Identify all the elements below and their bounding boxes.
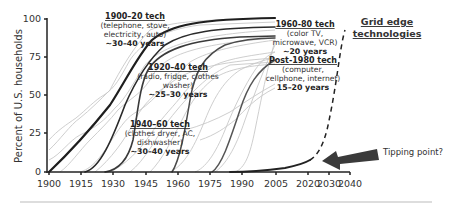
svg-text:1960-80 tech: 1960-80 tech <box>275 20 334 29</box>
svg-text:1930: 1930 <box>101 178 125 189</box>
annotation-post-1980: Post-1980 tech (computer, cellphone, int… <box>266 56 341 92</box>
svg-text:0: 0 <box>35 166 41 177</box>
svg-text:~30–40 years: ~30–40 years <box>131 147 190 156</box>
svg-text:1945: 1945 <box>134 178 158 189</box>
svg-text:15–20 years: 15–20 years <box>277 83 330 92</box>
svg-text:(color TV,: (color TV, <box>287 29 323 38</box>
svg-text:1990: 1990 <box>230 178 254 189</box>
svg-text:electricity, auto): electricity, auto) <box>104 30 167 39</box>
svg-text:(computer,: (computer, <box>282 65 324 74</box>
svg-text:(clothes dryer, AC,: (clothes dryer, AC, <box>125 129 196 138</box>
tipping-point-arrow-icon <box>322 149 379 170</box>
svg-text:100: 100 <box>23 13 41 24</box>
svg-text:Post-1980 tech: Post-1980 tech <box>269 56 337 65</box>
svg-text:75: 75 <box>29 51 41 62</box>
y-axis-label: Percent of U.S. households <box>13 29 24 163</box>
svg-text:1915: 1915 <box>69 178 93 189</box>
tipping-point-label: Tipping point? <box>382 147 443 157</box>
svg-text:dishwasher): dishwasher) <box>137 138 183 147</box>
svg-text:~20 years: ~20 years <box>283 47 328 56</box>
svg-text:1920–40 tech: 1920–40 tech <box>148 63 208 72</box>
annotation-1960-80: 1960-80 tech (color TV, microwave, VCR) … <box>273 20 338 56</box>
svg-text:1900–20 tech: 1900–20 tech <box>105 12 165 21</box>
svg-text:cellphone, internet): cellphone, internet) <box>266 74 341 83</box>
annotation-1900-20: 1900–20 tech (telephone, stove, electric… <box>100 12 169 48</box>
svg-text:1975: 1975 <box>198 178 222 189</box>
svg-text:2040: 2040 <box>338 178 362 189</box>
svg-text:25: 25 <box>29 127 41 138</box>
y-tick-labels: 100 75 50 25 0 <box>23 13 41 177</box>
svg-text:50: 50 <box>29 89 41 100</box>
svg-text:(telephone, stove,: (telephone, stove, <box>100 21 169 30</box>
svg-text:1900: 1900 <box>37 178 61 189</box>
svg-text:technologies: technologies <box>353 28 422 39</box>
annotation-1940-60: 1940–60 tech (clothes dryer, AC, dishwas… <box>125 120 196 156</box>
adoption-chart: 100 75 50 25 0 1900 1915 1930 1945 1960 … <box>0 0 452 203</box>
annotation-grid-edge: Grid edge technologies <box>353 16 422 39</box>
svg-text:1960: 1960 <box>166 178 190 189</box>
curve-grid-edge-baseline <box>230 160 310 172</box>
svg-text:Grid edge: Grid edge <box>361 16 413 27</box>
svg-text:(radio, fridge, clothes: (radio, fridge, clothes <box>137 72 219 81</box>
svg-text:washer): washer) <box>163 81 193 90</box>
x-tick-labels: 1900 1915 1930 1945 1960 1975 1990 2005 … <box>37 178 362 189</box>
svg-text:~30–40 years: ~30–40 years <box>106 39 165 48</box>
svg-text:1940–60 tech: 1940–60 tech <box>130 120 190 129</box>
svg-text:2005: 2005 <box>264 178 288 189</box>
svg-text:~25–30 years: ~25–30 years <box>149 90 208 99</box>
svg-text:microwave, VCR): microwave, VCR) <box>273 38 338 47</box>
